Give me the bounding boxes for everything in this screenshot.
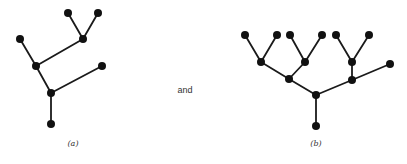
tree-a-caption: (a) — [67, 139, 78, 148]
tree-node — [273, 31, 281, 39]
tree-edge — [36, 66, 51, 93]
tree-edge — [51, 66, 102, 93]
tree-node — [312, 122, 320, 130]
tree-node — [64, 9, 72, 17]
tree-diagram — [0, 0, 407, 164]
tree-node — [386, 60, 394, 68]
tree-node — [98, 62, 106, 70]
tree-node — [16, 35, 24, 43]
tree-node — [257, 58, 265, 66]
tree-edge — [261, 35, 277, 62]
tree-node — [79, 35, 87, 43]
tree-node — [286, 31, 294, 39]
tree-node — [332, 31, 340, 39]
tree-edge — [261, 62, 289, 79]
tree-node — [312, 91, 320, 99]
tree-node — [94, 9, 102, 17]
tree-edge — [36, 39, 83, 66]
tree-edge — [336, 35, 352, 62]
tree-b-caption: (b) — [310, 139, 321, 148]
tree-edge — [352, 35, 369, 62]
tree-node — [285, 75, 293, 83]
tree-node — [47, 120, 55, 128]
tree-edge — [352, 64, 390, 80]
tree-edge — [289, 79, 316, 95]
tree-edge — [316, 80, 352, 95]
tree-edge — [290, 35, 305, 62]
tree-edge — [245, 35, 261, 62]
tree-node — [32, 62, 40, 70]
tree-node — [365, 31, 373, 39]
tree-edge — [83, 13, 98, 39]
tree-node — [348, 58, 356, 66]
tree-a — [16, 9, 106, 128]
tree-node — [241, 31, 249, 39]
tree-edge — [68, 13, 83, 39]
tree-edge — [305, 35, 322, 62]
tree-node — [318, 31, 326, 39]
connector-word: and — [177, 85, 192, 95]
tree-node — [47, 89, 55, 97]
tree-edge — [20, 39, 36, 66]
tree-node — [348, 76, 356, 84]
tree-b — [241, 31, 394, 130]
tree-node — [301, 58, 309, 66]
